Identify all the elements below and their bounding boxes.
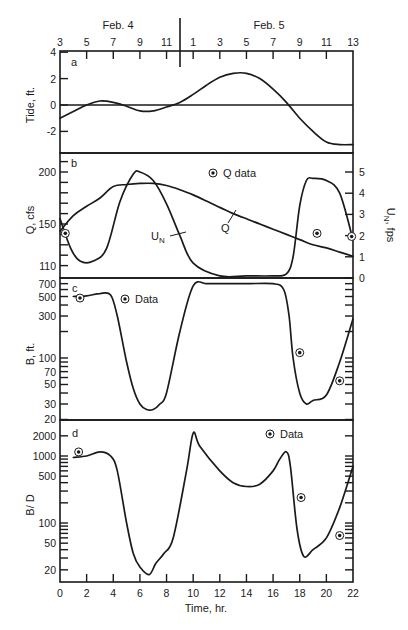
y-tick-label: 20 [44,564,56,576]
y-tick-label: 2 [50,73,56,85]
y-right-tick-label: 2 [359,230,365,242]
panel-b-right-ylabel: UN, fps [382,208,397,243]
panel-a-letter: a [71,56,78,68]
y-tick-label: 70 [44,366,56,378]
legend-data-c: Data [135,293,159,305]
curve-label-q: Q [221,222,230,234]
x-tick-label: 20 [321,587,333,599]
data-markers [61,229,355,539]
top-tick-label: 3 [57,36,63,48]
top-tick-label: 5 [244,36,250,48]
y-tick-label: 20 [44,413,56,425]
top-tick-label: 5 [84,36,90,48]
curves [60,73,353,575]
y-tick-label: 4 [50,46,56,58]
x-tick-label: 4 [110,587,116,599]
legend-data-d: Data [280,428,304,440]
y-right-tick-label: 5 [359,166,365,178]
x-axis-label: Time, hr. [185,602,227,614]
top-tick-label: 7 [270,36,276,48]
panel-c-legend: Data [121,293,159,305]
panel-c-letter: c [72,282,78,294]
top-tick-label: 11 [321,36,332,48]
y-tick-label: 700 [38,278,56,290]
y-tick-label: 100 [38,517,56,529]
x-tick-label: 8 [164,587,170,599]
y-tick-label: 150 [38,218,56,230]
y-right-tick-label: 4 [359,187,365,199]
hydrology-chart: Feb. 4 Feb. 5 357911135791113 a b c d Ti… [0,0,408,630]
b-curve [73,282,353,410]
panel-c-frame [60,278,353,420]
panel-b-legend: Q data [209,167,257,179]
x-tick-label: 18 [294,587,306,599]
x-tick-label: 0 [57,587,63,599]
panel-d-letter: d [72,427,78,439]
top-tick-label: 9 [137,36,143,48]
tide-curve [60,73,353,145]
panel-d-legend: Data [266,428,304,440]
date-label-feb5: Feb. 5 [253,19,284,31]
x-tick-label: 6 [137,587,143,599]
top-hour-ticks: 357911135791113 [57,36,359,59]
panel-c-ylabel: B, ft. [24,343,36,366]
y-tick-label: 100 [38,352,56,364]
y-right-tick-label: 3 [359,208,365,220]
y-tick-label: 500 [38,470,56,482]
un-curve [60,171,353,277]
axis-ticks: 0246810121416182022420-21101502005432102… [33,46,365,599]
top-tick-label: 9 [297,36,303,48]
x-tick-label: 2 [84,587,90,599]
top-tick-label: 11 [161,36,172,48]
y-tick-label: 30 [44,398,56,410]
y-right-tick-label: 1 [359,251,365,263]
y-tick-label: 500 [38,291,56,303]
top-tick-label: 3 [217,36,223,48]
y-tick-label: 200 [38,166,56,178]
y-tick-label: 50 [44,378,56,390]
x-tick-label: 12 [214,587,226,599]
panel-b-letter: b [71,157,77,169]
panel-a-ylabel: Tide, ft. [24,87,36,123]
panel-b-ylabel: Q, cfs [24,205,36,234]
panel-a-frame [60,51,353,153]
q-curve [60,183,353,256]
date-label-feb4: Feb. 4 [102,19,133,31]
top-tick-label: 13 [347,36,359,48]
x-tick-label: 14 [241,587,253,599]
y-tick-label: -2 [47,125,56,137]
y-tick-label: 0 [50,99,56,111]
top-tick-label: 1 [190,36,196,48]
top-date-axis: Feb. 4 Feb. 5 357911135791113 [57,18,359,67]
panel-d-ylabel: B/ D [24,494,36,515]
x-tick-label: 10 [187,587,199,599]
y-tick-label: 300 [38,310,56,322]
y-tick-label: 2000 [33,430,57,442]
y-tick-label: 50 [44,537,56,549]
panel-d-frame [60,420,353,582]
y-right-tick-label: 0 [359,272,365,284]
curve-label-un: UN [151,230,165,245]
legend-q-data: Q data [223,167,257,179]
bd-curve [73,432,353,574]
x-tick-label: 16 [267,587,279,599]
top-tick-label: 7 [110,36,116,48]
y-tick-label: 110 [39,260,56,272]
x-tick-label: 22 [347,587,359,599]
panel-b-frame [60,153,353,278]
y-tick-label: 1000 [33,450,57,462]
